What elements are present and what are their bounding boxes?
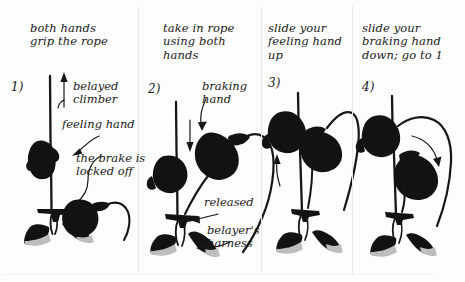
belay-diagram: both hands grip the rope 1) belayed clim… (0, 0, 465, 282)
panel-2-step-number: 2) (148, 82, 160, 96)
label-released: released (204, 196, 254, 209)
panel-3-artwork (262, 93, 359, 254)
panel-3-step-number: 3) (268, 76, 280, 90)
bottom-rule (4, 274, 434, 275)
panel-2-heading: take in rope using both hands (163, 22, 234, 62)
panel-4-artwork (356, 96, 451, 257)
slide-up-arrow (273, 154, 280, 186)
panel-4-step-number: 4) (362, 80, 374, 94)
label-feeling-hand: feeling hand (62, 118, 135, 131)
label-belayers-harness: belayer's harness (207, 224, 260, 250)
panel-divider-1 (138, 6, 139, 274)
panel-divider-2 (261, 6, 262, 274)
label-belayed-climber: belayed climber (73, 80, 118, 106)
slide-down-arrow (412, 136, 442, 167)
panel-1-step-number: 1) (11, 80, 23, 94)
panel-1-heading: both hands grip the rope (30, 22, 108, 49)
climber-up-arrow (60, 72, 67, 107)
panel-4-heading: slide your braking hand down; go to 1 (362, 22, 443, 62)
take-in-down-arrow (186, 120, 193, 152)
panel-divider-3 (352, 6, 353, 274)
label-braking-hand: braking hand (202, 80, 247, 106)
label-brake-locked-off: the brake is locked off (76, 152, 145, 178)
panel-3-heading: slide your feeling hand up (268, 22, 342, 62)
